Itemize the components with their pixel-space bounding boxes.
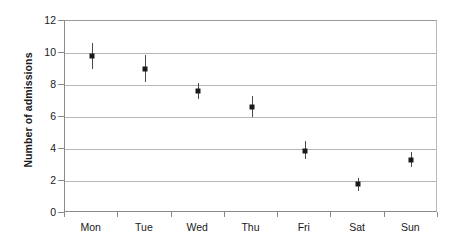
x-tick-6 xyxy=(384,212,385,217)
x-tick-4 xyxy=(277,212,278,217)
x-tick-1 xyxy=(117,212,118,217)
gridline-10 xyxy=(65,53,436,54)
data-point-sat xyxy=(356,182,361,187)
data-point-tue xyxy=(142,67,147,72)
x-tick-2 xyxy=(171,212,172,217)
y-tick-label-2: 2 xyxy=(30,174,56,186)
x-tick-0 xyxy=(64,212,65,217)
data-point-wed xyxy=(196,89,201,94)
gridline-6 xyxy=(65,117,436,118)
gridline-2 xyxy=(65,181,436,182)
admissions-error-bar-chart: Number of admissions 024681012 MonTueWed… xyxy=(0,0,462,247)
x-tick-label-wed: Wed xyxy=(187,221,208,233)
gridline-8 xyxy=(65,85,436,86)
gridline-4 xyxy=(65,149,436,150)
x-tick-label-tue: Tue xyxy=(135,221,153,233)
x-tick-label-fri: Fri xyxy=(298,221,310,233)
x-tick-3 xyxy=(224,212,225,217)
data-point-sun xyxy=(409,158,414,163)
x-tick-7 xyxy=(437,212,438,217)
y-tick-label-8: 8 xyxy=(30,78,56,90)
x-tick-5 xyxy=(330,212,331,217)
x-tick-label-mon: Mon xyxy=(80,221,100,233)
data-point-fri xyxy=(302,148,307,153)
y-tick-label-4: 4 xyxy=(30,142,56,154)
x-tick-label-sun: Sun xyxy=(401,221,420,233)
data-point-thu xyxy=(249,105,254,110)
y-tick-label-6: 6 xyxy=(30,110,56,122)
y-tick-label-10: 10 xyxy=(30,46,56,58)
plot-area xyxy=(64,20,437,212)
x-tick-label-thu: Thu xyxy=(241,221,259,233)
y-tick-label-12: 12 xyxy=(30,14,56,26)
y-tick-label-0: 0 xyxy=(30,206,56,218)
x-tick-label-sat: Sat xyxy=(349,221,365,233)
data-point-mon xyxy=(89,54,94,59)
